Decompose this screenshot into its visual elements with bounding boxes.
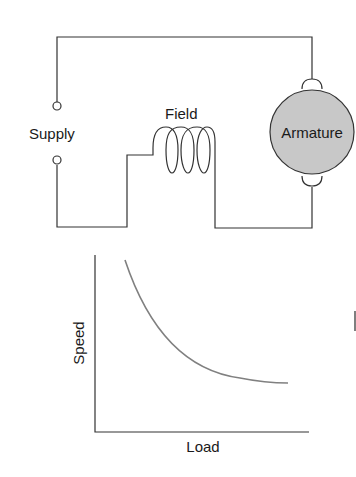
series-motor-diagram: Supply Field Armature Load Speed — [0, 0, 356, 477]
field-coil-icon — [153, 127, 215, 173]
speed-load-graph: Load Speed — [70, 255, 309, 455]
supply-label: Supply — [29, 125, 75, 142]
y-axis-label: Speed — [70, 321, 87, 364]
armature-label: Armature — [281, 124, 343, 141]
field-label: Field — [165, 105, 198, 122]
bottom-left-wire — [57, 148, 153, 227]
top-wire — [57, 37, 312, 102]
x-axis-label: Load — [186, 438, 219, 455]
supply-terminal-bottom — [53, 156, 61, 164]
armature-brush-top — [302, 79, 322, 89]
graph-axes — [95, 255, 309, 432]
armature-brush-bottom — [302, 176, 322, 186]
supply-terminal-top — [53, 102, 61, 110]
speed-curve — [125, 260, 288, 383]
